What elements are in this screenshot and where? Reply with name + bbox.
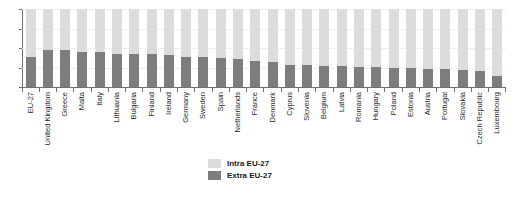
bar-slot (178, 9, 195, 87)
x-label-cell: Italy (91, 92, 108, 152)
x-axis-category-label: Spain (217, 92, 225, 111)
bar-slot (419, 9, 436, 87)
x-label-cell: Bulgaria (126, 92, 143, 152)
x-axis-category-label: France (251, 92, 259, 115)
stacked-bar (233, 9, 243, 87)
bar-segment-extra (250, 61, 260, 87)
bar-slot (299, 9, 316, 87)
bar-segment-intra (423, 9, 433, 69)
bar-slot (195, 9, 212, 87)
stacked-bar (371, 9, 381, 87)
bar-segment-intra (60, 9, 70, 50)
bar-segment-extra (354, 67, 364, 87)
stacked-bar (181, 9, 191, 87)
bar-slot (126, 9, 143, 87)
bar-segment-extra (371, 67, 381, 87)
stacked-bar (268, 9, 278, 87)
legend-label-extra: Extra EU-27 (227, 171, 272, 180)
x-label-cell: Denmark (264, 92, 281, 152)
x-axis-category-label: Latvia (338, 92, 346, 112)
stacked-bar (302, 9, 312, 87)
bar-segment-extra (268, 62, 278, 87)
x-label-cell: Hungary (368, 92, 385, 152)
bar-segment-intra (43, 9, 53, 50)
legend-item-extra: Extra EU-27 (208, 171, 272, 180)
x-axis-category-label: Austria (424, 92, 432, 115)
x-axis-category-label: Poland (390, 92, 398, 115)
bar-slot (281, 9, 298, 87)
bar-slot (385, 9, 402, 87)
legend-label-intra: Intra EU-27 (227, 159, 269, 168)
stacked-bar (492, 9, 502, 87)
bar-slot (437, 9, 454, 87)
bar-slot (471, 9, 488, 87)
bar-segment-intra (389, 9, 399, 68)
bar-segment-extra (389, 68, 399, 88)
x-axis-category-label: Lithuania (113, 92, 121, 122)
bar-segment-extra (285, 65, 295, 87)
bar-segment-intra (492, 9, 502, 76)
bar-segment-extra (198, 57, 208, 87)
bar-slot (143, 9, 160, 87)
bar-segment-intra (77, 9, 87, 52)
bar-series-group (22, 9, 506, 87)
x-label-cell: Greece (57, 92, 74, 152)
bar-segment-extra (181, 57, 191, 87)
bar-segment-intra (26, 9, 36, 57)
x-label-cell: Luxembourg (489, 92, 506, 152)
stacked-bar (164, 9, 174, 87)
chart-legend: Intra EU-27 Extra EU-27 (208, 159, 272, 180)
stacked-bar (337, 9, 347, 87)
bar-segment-extra (147, 54, 157, 87)
bar-slot (316, 9, 333, 87)
bar-segment-extra (319, 66, 329, 87)
x-axis-category-label: Greece (61, 92, 69, 117)
stacked-bar (406, 9, 416, 87)
bar-segment-extra (423, 69, 433, 87)
stacked-bar (319, 9, 329, 87)
x-label-cell: France (247, 92, 264, 152)
x-axis-category-label: Cyprus (286, 92, 294, 116)
x-axis-category-label: Luxembourg (493, 92, 501, 134)
stacked-bar (475, 9, 485, 87)
stacked-bar-chart: 0255075100 EU-27United KingdomGreeceMalt… (0, 0, 512, 199)
bar-segment-intra (475, 9, 485, 71)
bar-slot (22, 9, 39, 87)
x-axis-category-label: Slovakia (459, 92, 467, 120)
x-label-cell: Cyprus (281, 92, 298, 152)
bar-slot (402, 9, 419, 87)
bar-segment-intra (250, 9, 260, 61)
bar-segment-extra (60, 50, 70, 87)
stacked-bar (112, 9, 122, 87)
stacked-bar (458, 9, 468, 87)
stacked-bar (198, 9, 208, 87)
x-axis-category-label: Germany (182, 92, 190, 123)
x-label-cell: United Kingdom (39, 92, 56, 152)
stacked-bar (60, 9, 70, 87)
bar-slot (212, 9, 229, 87)
x-axis-category-label: Italy (96, 92, 104, 106)
bar-segment-intra (319, 9, 329, 66)
x-label-cell: Estonia (402, 92, 419, 152)
x-label-cell: Romania (350, 92, 367, 152)
x-label-cell: Malta (74, 92, 91, 152)
stacked-bar (95, 9, 105, 87)
legend-swatch-intra-icon (208, 159, 221, 168)
stacked-bar (216, 9, 226, 87)
x-axis-category-label: Malta (78, 92, 86, 110)
bar-segment-intra (95, 9, 105, 52)
bar-segment-intra (458, 9, 468, 70)
bar-segment-intra (181, 9, 191, 57)
bar-slot (247, 9, 264, 87)
x-label-cell: Sweden (195, 92, 212, 152)
x-label-cell: Belgium (316, 92, 333, 152)
x-label-cell: Portugal (437, 92, 454, 152)
x-axis-category-label: Romania (355, 92, 363, 122)
x-label-cell: Slovakia (454, 92, 471, 152)
x-axis-category-label: Denmark (269, 92, 277, 122)
x-axis-category-label: Sweden (199, 92, 207, 119)
stacked-bar (147, 9, 157, 87)
bar-slot (39, 9, 56, 87)
bar-segment-intra (354, 9, 364, 67)
bar-segment-extra (492, 76, 502, 87)
